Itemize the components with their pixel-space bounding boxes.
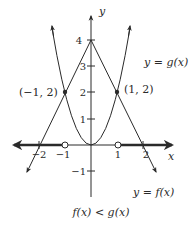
point-label-left: (−1, 2) (19, 86, 58, 99)
x-tick-1: 1 (115, 149, 121, 160)
caption: f(x) < g(x) (72, 206, 130, 219)
y-tick-neg1: −1 (71, 166, 86, 177)
intersection-point-left (63, 90, 67, 94)
x-tick-neg1: −1 (56, 149, 71, 160)
y-axis: y 4 3 2 1 −1 (71, 5, 106, 197)
inequality-graph: y 4 3 2 1 −1 x −2 −1 1 2 (−1, (0, 0, 189, 226)
x-axis-label: x (168, 150, 175, 163)
y-axis-label: y (98, 5, 106, 18)
y-tick-2: 2 (80, 87, 86, 98)
label-f: y = f(x) (132, 186, 174, 199)
label-g: y = g(x) (143, 56, 188, 69)
y-tick-3: 3 (80, 61, 86, 72)
y-tick-4: 4 (76, 35, 82, 46)
intersection-point-right (115, 90, 119, 94)
y-tick-1: 1 (80, 114, 86, 125)
open-circle-1 (115, 142, 121, 148)
point-label-right: (1, 2) (124, 83, 154, 96)
open-circle-neg1 (62, 142, 68, 148)
